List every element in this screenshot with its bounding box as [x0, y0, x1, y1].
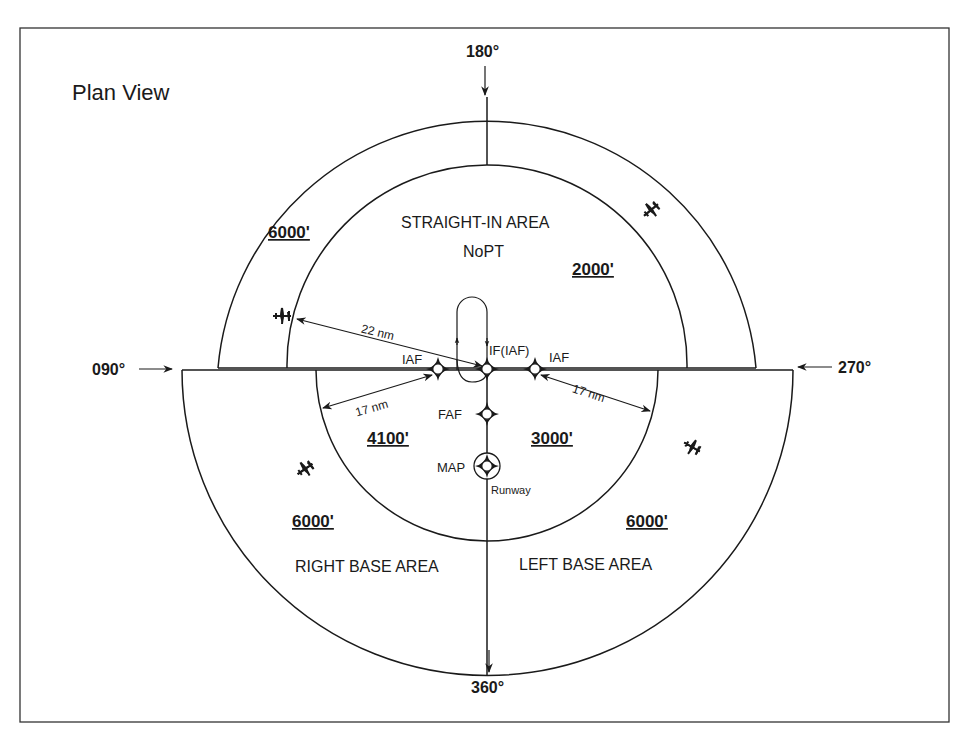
map-label: MAP [437, 460, 465, 475]
altitude-straight-in: 2000' [572, 260, 614, 279]
plan-view-title: Plan View [72, 80, 170, 105]
airplane-icon-northeast [639, 198, 663, 222]
heading-180: 180° [466, 43, 499, 60]
iaf-right-label: IAF [549, 350, 569, 365]
heading-360: 360° [471, 679, 504, 696]
heading-090: 090° [92, 361, 125, 378]
iaf-right-fix-icon [523, 357, 547, 381]
diagram-frame [20, 28, 949, 722]
airplane-icon-southeast [680, 436, 704, 459]
altitude-outer-left-base: 6000' [626, 512, 668, 531]
iaf-left-label: IAF [402, 352, 422, 367]
airplane-icon-southwest [293, 457, 317, 480]
straight-in-area-label: STRAIGHT-IN AREA [401, 214, 550, 231]
faf-fix-icon [475, 402, 499, 426]
altitude-outer-right-base: 6000' [292, 512, 334, 531]
if-iaf-fix-icon [475, 357, 499, 381]
iaf-left-fix-icon [426, 357, 450, 381]
distance-17nm-left-label: 17 nm [354, 397, 390, 420]
airplane-icon-northwest [273, 308, 291, 324]
nopt-label: NoPT [463, 243, 504, 260]
heading-270: 270° [838, 359, 871, 376]
distance-22nm-arrow [297, 319, 482, 366]
right-base-area-label: RIGHT BASE AREA [295, 558, 439, 575]
runway-label: Runway [491, 484, 531, 496]
if-iaf-label: IF(IAF) [489, 343, 529, 358]
plan-view-diagram: Plan View 180° 090° 270° 360° 22 nm 17 n… [0, 0, 958, 731]
altitude-outer-northwest: 6000' [268, 223, 310, 242]
left-base-area-label: LEFT BASE AREA [519, 556, 652, 573]
faf-label: FAF [438, 407, 462, 422]
altitude-inner-left-base: 3000' [531, 429, 573, 448]
distance-17nm-right-label: 17 nm [571, 381, 607, 405]
holding-pattern [457, 297, 487, 370]
altitude-inner-right-base: 4100' [367, 429, 409, 448]
